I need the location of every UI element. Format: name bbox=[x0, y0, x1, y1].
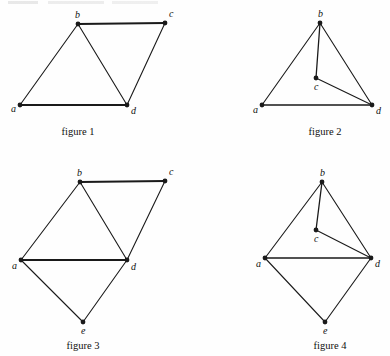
vertex-label-a: a bbox=[256, 259, 261, 269]
vertex-label-c: c bbox=[314, 234, 318, 244]
vertex-c bbox=[314, 228, 319, 233]
vertex-b bbox=[320, 180, 325, 185]
edge-cd bbox=[316, 230, 371, 258]
edge-ae bbox=[265, 258, 325, 322]
edge-ab bbox=[265, 182, 322, 258]
diagram-page: abcdfigure 1abcdfigure 2abcdefigure 3abc… bbox=[0, 0, 390, 356]
vertex-a bbox=[263, 256, 268, 261]
edge-de bbox=[325, 258, 371, 322]
graph-canvas-figure-4 bbox=[0, 0, 390, 356]
vertex-label-d: d bbox=[375, 259, 380, 269]
edge-bd bbox=[322, 182, 371, 258]
vertex-label-e: e bbox=[323, 326, 327, 336]
caption-figure-4: figure 4 bbox=[290, 340, 370, 352]
graph-figure-4: abcdefigure 4 bbox=[0, 0, 390, 356]
vertex-e bbox=[323, 320, 328, 325]
vertex-label-b: b bbox=[320, 168, 325, 178]
vertex-d bbox=[369, 256, 374, 261]
